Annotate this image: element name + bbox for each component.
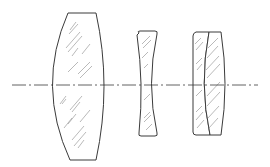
lens-3b bbox=[204, 32, 225, 135]
lens-diagram-svg bbox=[0, 0, 270, 167]
lens-1-biconvex bbox=[52, 13, 104, 160]
lens-3-cemented-doublet bbox=[193, 32, 225, 135]
lens-diagram bbox=[0, 0, 270, 167]
lens-2-biconcave bbox=[137, 31, 157, 136]
